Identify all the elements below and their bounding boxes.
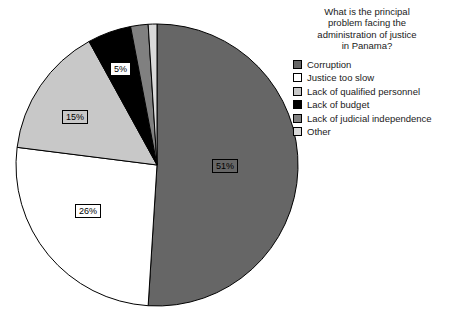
pie-slices (16, 24, 298, 306)
legend-item-label: Lack of judicial independence (307, 113, 432, 124)
legend-item[interactable]: Justice too slow (293, 71, 451, 84)
pie-slice-value-label: 15% (62, 110, 88, 124)
legend-items: CorruptionJustice too slowLack of qualif… (283, 58, 451, 139)
chart-title-line: administration of justice (317, 29, 416, 40)
pie-chart (0, 0, 300, 318)
chart-title: What is the principalproblem facing thea… (283, 6, 451, 52)
legend-item-label: Lack of budget (307, 99, 369, 110)
pie-svg (0, 0, 300, 318)
legend-item-label: Lack of qualified personnel (307, 86, 420, 97)
legend-item-label: Other (307, 126, 331, 137)
legend-swatch-icon (293, 114, 302, 123)
pie-slice-value-label: 26% (75, 204, 101, 218)
legend-item[interactable]: Other (293, 125, 451, 138)
chart-title-line: problem facing the (328, 17, 406, 28)
legend-item-label: Corruption (307, 59, 351, 70)
legend-item[interactable]: Corruption (293, 58, 451, 71)
pie-slice[interactable] (16, 147, 157, 305)
chart-title-line: What is the principal (324, 6, 410, 17)
legend-item-label: Justice too slow (307, 72, 374, 83)
chart-canvas: 51%26%15%5% What is the principalproblem… (0, 0, 452, 318)
pie-slice-value-label: 51% (212, 159, 238, 173)
legend-swatch-icon (293, 73, 302, 82)
pie-slice-value-label: 5% (110, 62, 131, 76)
legend-swatch-icon (293, 100, 302, 109)
legend: What is the principalproblem facing thea… (283, 6, 451, 139)
legend-swatch-icon (293, 60, 302, 69)
chart-title-line: in Panama? (342, 40, 393, 51)
legend-item[interactable]: Lack of judicial independence (293, 112, 451, 125)
legend-item[interactable]: Lack of qualified personnel (293, 85, 451, 98)
legend-item[interactable]: Lack of budget (293, 98, 451, 111)
legend-swatch-icon (293, 87, 302, 96)
legend-swatch-icon (293, 127, 302, 136)
